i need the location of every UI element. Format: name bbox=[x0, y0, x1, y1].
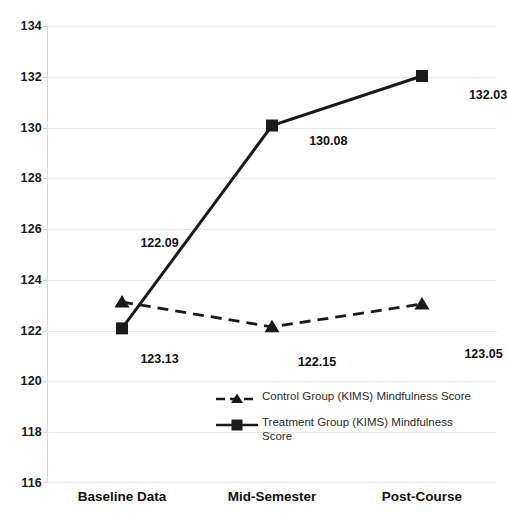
legend: Control Group (KIMS) Mindfulness Score T… bbox=[216, 390, 486, 452]
legend-item-control[interactable]: Control Group (KIMS) Mindfulness Score bbox=[216, 390, 486, 407]
data-point-marker[interactable] bbox=[115, 295, 130, 308]
line-chart: 134 132 130 128 126 124 122 120 118 116 bbox=[0, 0, 507, 526]
y-tick-label: 128 bbox=[21, 171, 42, 185]
x-tick-label-mid-semester: Mid-Semester bbox=[228, 489, 317, 504]
y-tick-label: 118 bbox=[21, 425, 42, 439]
data-value-label: 122.15 bbox=[298, 355, 336, 369]
solid-square-icon bbox=[216, 417, 258, 433]
y-tick-label: 116 bbox=[21, 476, 42, 490]
legend-label-control: Control Group (KIMS) Mindfulness Score bbox=[262, 390, 471, 404]
y-tick-label: 130 bbox=[21, 121, 42, 135]
y-tick-label: 124 bbox=[21, 273, 42, 287]
data-point-marker[interactable] bbox=[416, 70, 428, 82]
legend-item-treatment[interactable]: Treatment Group (KIMS) Mindfulness Score bbox=[216, 416, 486, 443]
data-value-label: 123.13 bbox=[140, 352, 178, 366]
data-value-label: 132.03 bbox=[469, 88, 507, 102]
dashed-triangle-icon bbox=[216, 391, 258, 407]
x-tick-label-post-course: Post-Course bbox=[382, 489, 462, 504]
data-value-label: 123.05 bbox=[464, 347, 502, 361]
data-point-marker[interactable] bbox=[266, 120, 278, 132]
data-point-marker[interactable] bbox=[116, 322, 128, 334]
x-axis: Baseline Data Mid-Semester Post-Course bbox=[47, 489, 497, 517]
data-value-label: 122.09 bbox=[140, 236, 178, 250]
y-tick-label: 132 bbox=[21, 70, 42, 84]
x-tick-label-baseline: Baseline Data bbox=[78, 489, 167, 504]
series-line-treatment bbox=[122, 76, 422, 328]
y-tick-label: 134 bbox=[21, 19, 42, 33]
y-tick-label: 126 bbox=[21, 222, 42, 236]
data-point-marker[interactable] bbox=[415, 297, 430, 310]
y-tick-label: 120 bbox=[21, 374, 42, 388]
legend-label-treatment: Treatment Group (KIMS) Mindfulness Score bbox=[262, 416, 477, 443]
data-value-label: 130.08 bbox=[309, 134, 347, 148]
y-tick-label: 122 bbox=[21, 324, 42, 338]
y-axis: 134 132 130 128 126 124 122 120 118 116 bbox=[0, 26, 42, 483]
